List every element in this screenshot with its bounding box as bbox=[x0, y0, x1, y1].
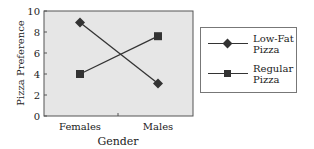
x-tick-label: Males bbox=[143, 121, 173, 132]
legend-label: Regular Pizza bbox=[253, 63, 297, 85]
chart-legend: Low-Fat Pizza Regular Pizza bbox=[200, 27, 297, 93]
legend-item-low-fat: Low-Fat Pizza bbox=[201, 32, 298, 60]
y-tick-label: 0 bbox=[34, 111, 40, 122]
y-tick-label: 2 bbox=[34, 90, 40, 101]
square-marker-icon bbox=[224, 70, 231, 77]
legend-label-line2: Pizza bbox=[253, 44, 297, 55]
square-marker-icon bbox=[76, 70, 84, 78]
legend-item-regular: Regular Pizza bbox=[201, 62, 298, 90]
legend-label: Low-Fat Pizza bbox=[253, 33, 297, 55]
y-tick-label: 4 bbox=[34, 69, 40, 80]
legend-label-line1: Regular bbox=[253, 63, 297, 74]
y-axis-label: Pizza Preference bbox=[15, 20, 26, 105]
diamond-marker-icon bbox=[223, 39, 233, 49]
y-tick-label: 10 bbox=[27, 6, 40, 17]
y-tick-label: 8 bbox=[34, 27, 40, 38]
legend-label-line2: Pizza bbox=[253, 74, 297, 85]
x-tick-label: Females bbox=[59, 121, 101, 132]
y-tick-label: 6 bbox=[34, 48, 40, 59]
x-axis-label: Gender bbox=[97, 135, 139, 148]
plot-area bbox=[44, 11, 193, 116]
legend-label-line1: Low-Fat bbox=[253, 33, 297, 44]
square-marker-icon bbox=[154, 32, 162, 40]
